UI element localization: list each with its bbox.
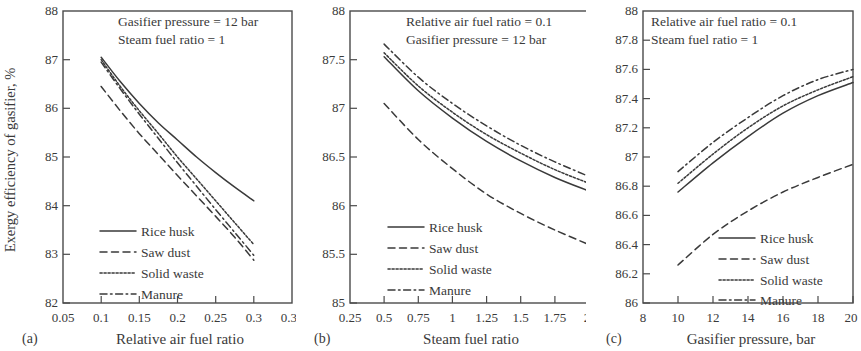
x-tick: 1.5 <box>513 296 529 325</box>
y-tick: 87.6 <box>615 61 650 76</box>
y-tick-label: 84 <box>45 198 59 213</box>
y-tick: 86.2 <box>615 266 650 281</box>
y-tick: 85.5 <box>322 246 357 261</box>
panel-c-legend: Rice husk Saw dust Solid waste Manure <box>719 231 823 308</box>
panel-a-annotation-2: Steam fuel ratio = 1 <box>118 32 225 47</box>
x-tick-label: 0.1 <box>93 310 109 325</box>
x-tick-label: 0.15 <box>128 310 151 325</box>
curve-rice-husk <box>384 57 586 191</box>
curve-rice-husk <box>678 83 853 192</box>
x-tick: 18 <box>812 296 825 325</box>
y-tick: 86 <box>625 295 650 310</box>
y-tick: 83 <box>45 246 70 261</box>
panel-c-x-axis-title: Gasifier pressure, bar <box>687 331 816 347</box>
curve-solid-waste <box>101 60 254 245</box>
y-tick: 87 <box>332 100 357 115</box>
legend-label-solid-waste: Solid waste <box>760 273 823 288</box>
panel-b-x-axis-title: Steam fuel ratio <box>423 331 519 347</box>
chart-panel-c: 86 86.2 86.4 86.6 86.8 <box>586 0 861 351</box>
panel-a-y-ticks: 82 83 84 85 86 <box>45 3 70 310</box>
curve-manure <box>384 44 586 176</box>
y-tick-label: 88 <box>45 3 58 18</box>
panel-a-legend: Rice husk Saw dust Solid waste Manure <box>100 224 204 302</box>
legend-label-rice-husk: Rice husk <box>141 224 195 239</box>
x-tick-label: 16 <box>777 310 791 325</box>
y-tick-label: 87 <box>45 52 59 67</box>
x-tick-label: 12 <box>707 310 720 325</box>
panel-b-annotation-1: Relative air fuel ratio = 0.1 <box>406 14 552 29</box>
legend-label-manure: Manure <box>760 293 802 308</box>
x-tick-label: 8 <box>640 310 647 325</box>
panel-a-ylabel-group: Exergy efficiency of gasifier, % <box>2 68 18 253</box>
y-tick-label: 86.6 <box>615 207 638 222</box>
y-tick: 85 <box>45 149 70 164</box>
y-tick-label: 88 <box>625 3 638 18</box>
x-tick-label: 0.35 <box>281 310 296 325</box>
panel-c-annotation-2: Steam fuel ratio = 1 <box>651 32 758 47</box>
x-tick: 0.75 <box>407 296 430 325</box>
x-tick: 10 <box>672 296 685 325</box>
panel-a-x-axis-title: Relative air fuel ratio <box>116 331 244 347</box>
exergy-efficiency-figure: Exergy efficiency of gasifier, % 82 83 8… <box>0 0 861 351</box>
chart-panel-b: 85 85.5 86 86.5 87 <box>296 0 586 351</box>
curve-solid-waste <box>384 53 586 183</box>
y-tick: 85 <box>332 295 357 310</box>
y-tick: 87.2 <box>615 120 650 135</box>
chart-panel-a: Exergy efficiency of gasifier, % 82 83 8… <box>0 0 296 351</box>
y-tick-label: 86.2 <box>615 266 638 281</box>
y-tick-label: 85.5 <box>322 246 345 261</box>
y-tick: 87 <box>45 52 70 67</box>
x-tick-label: 1.5 <box>513 310 529 325</box>
legend-label-solid-waste: Solid waste <box>429 262 492 277</box>
legend-label-rice-husk: Rice husk <box>760 231 814 246</box>
panel-b-y-ticks: 85 85.5 86 86.5 87 <box>322 3 357 310</box>
panel-b-annotation-2: Gasifier pressure = 12 bar <box>406 32 547 47</box>
x-tick: 12 <box>707 296 720 325</box>
x-tick-label: 0.75 <box>407 310 430 325</box>
y-tick-label: 88 <box>332 3 345 18</box>
legend-label-manure: Manure <box>141 287 183 302</box>
x-tick: 0.25 <box>204 296 227 325</box>
y-tick: 86.6 <box>615 207 650 222</box>
y-tick: 86 <box>332 198 357 213</box>
x-tick-label: 1 <box>449 310 456 325</box>
y-tick-label: 87.2 <box>615 120 638 135</box>
y-tick-label: 85 <box>45 149 58 164</box>
curve-rice-husk <box>101 57 254 201</box>
y-tick-label: 87 <box>625 149 639 164</box>
panel-b-x-ticks: 0.25 0.5 0.75 1 1.25 <box>339 296 586 325</box>
legend-label-saw-dust: Saw dust <box>429 241 478 256</box>
panel-c-x-ticks: 8 10 12 14 16 <box>640 296 858 325</box>
legend-label-saw-dust: Saw dust <box>760 252 809 267</box>
panel-c-letter: (c) <box>606 331 622 347</box>
x-tick: 1.75 <box>544 296 567 325</box>
y-tick-label: 86.5 <box>322 149 345 164</box>
y-tick: 88 <box>332 3 345 18</box>
y-tick-label: 87.5 <box>322 52 345 67</box>
x-tick: 0.35 <box>281 310 296 325</box>
y-tick: 86.8 <box>615 178 650 193</box>
x-tick: 1.25 <box>475 296 498 325</box>
x-tick-label: 0.2 <box>169 310 185 325</box>
x-tick-label: 0.5 <box>376 310 392 325</box>
y-tick: 87 <box>625 149 650 164</box>
y-tick: 87.8 <box>615 32 650 47</box>
x-tick: 20 <box>845 296 858 325</box>
y-tick-label: 86 <box>332 198 346 213</box>
x-tick-label: 0.25 <box>204 310 227 325</box>
x-tick-label: 0.3 <box>246 310 262 325</box>
y-tick: 87.4 <box>615 91 650 106</box>
panel-b-letter: (b) <box>314 331 331 347</box>
y-tick: 86.4 <box>615 237 650 252</box>
legend-label-rice-husk: Rice husk <box>429 220 483 235</box>
x-tick-label: 18 <box>812 310 825 325</box>
y-tick-label: 86 <box>625 295 639 310</box>
y-tick: 88 <box>45 3 58 18</box>
x-tick-label: 0.05 <box>52 310 75 325</box>
x-tick: 8 <box>640 310 647 325</box>
y-tick-label: 86 <box>45 100 59 115</box>
y-tick-label: 87.4 <box>615 91 638 106</box>
y-tick: 86 <box>45 100 70 115</box>
panel-c-y-ticks: 86 86.2 86.4 86.6 86.8 <box>615 3 650 310</box>
x-tick: 0.5 <box>376 296 392 325</box>
